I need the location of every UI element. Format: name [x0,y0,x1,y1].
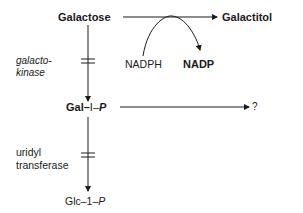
node-unknown: ? [252,101,258,113]
pathway-diagram: Galactose Galactitol NADPH NADP galacto-… [0,0,303,213]
enzyme-uridyl-transferase-line2: transferase [16,159,69,171]
cofactor-nadph: NADPH [125,58,162,70]
glc1p-phosphate: P [98,195,105,207]
enzyme-galactokinase-line2: kinase [16,67,45,79]
node-gal1p: Gal–I–P [66,101,106,113]
glc1p-prefix: Glc [65,195,81,207]
gal1p-phosphate: P [99,101,106,113]
enzyme-uridyl-transferase-line1: uridyl [16,146,41,158]
node-galactitol: Galactitol [222,11,272,23]
enzyme-galactokinase-line1: galacto- [16,55,52,67]
arrow-nadph-to-nadp [143,16,200,56]
node-glc1p: Glc–1–P [65,195,105,207]
node-galactose: Galactose [58,11,111,23]
cofactor-nadp: NADP [183,58,214,70]
gal1p-prefix: Gal [66,101,84,113]
